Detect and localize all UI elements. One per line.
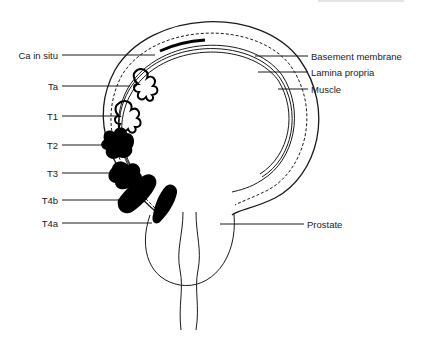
label-lamina-propria: Lamina propria [311,67,374,78]
label-prostate: Prostate [307,219,342,230]
ta-tumor [134,69,158,101]
label-ca-in-situ: Ca in situ [0,50,58,61]
label-t4a: T4a [0,218,58,229]
label-ta: Ta [0,81,58,92]
urethra-right [196,212,199,330]
urethra-left [179,212,183,330]
label-muscle: Muscle [311,84,341,95]
lamina-propria-line [118,45,294,192]
label-t4b: T4b [0,195,58,206]
label-t2: T2 [0,140,58,151]
t4a-tumor [152,184,177,223]
label-basement-membrane: Basement membrane [311,51,402,62]
prostate-outline [145,214,234,286]
label-t3: T3 [0,168,58,179]
label-t1: T1 [0,111,58,122]
